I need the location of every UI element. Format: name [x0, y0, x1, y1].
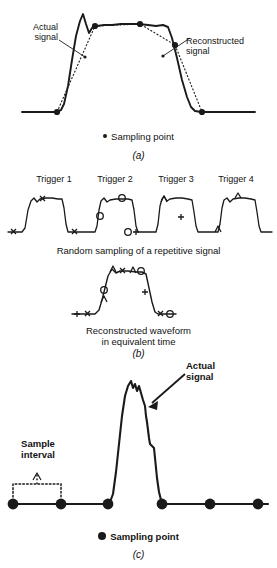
sample-interval-label: Sample interval — [6, 438, 70, 460]
actual-signal-leader-dot — [83, 55, 86, 58]
repetitive-sampling-caption: Random sampling of a repetitive signal — [8, 246, 269, 256]
panel-c-undersampled-pulse: Actual signal Sample interval Sampling p… — [0, 350, 277, 568]
legend-sampling-point-c: Sampling point — [0, 530, 277, 542]
panel-a-caption: (a) — [0, 150, 277, 161]
panel-a-waveform-svg — [0, 0, 277, 125]
panel-c-caption: (c) — [0, 549, 277, 560]
reconstructed-waveform-caption: Reconstructed waveform in equivalent tim… — [8, 325, 269, 347]
actual-signal-arrow-line-c — [152, 374, 185, 403]
sample-interval-bracket — [13, 484, 61, 497]
filled-circle-icon — [103, 134, 107, 138]
trigger-4-label: Trigger 4 — [208, 174, 264, 184]
filled-circle-icon — [98, 532, 106, 540]
reconstructed-waveform-trace — [72, 269, 176, 314]
reconstructed-sample-markers — [74, 266, 173, 317]
trigger-3-label: Trigger 3 — [148, 174, 204, 184]
panel-b-random-sampling: Trigger 1 Trigger 2 Trigger 3 Trigger 4 — [0, 170, 277, 350]
marker-circle-icon — [101, 268, 174, 318]
trigger-1-label: Trigger 1 — [26, 174, 82, 184]
panel-b-reconstructed-svg — [0, 260, 277, 326]
trigger-2-label: Trigger 2 — [87, 174, 143, 184]
repetitive-signal-trace — [8, 196, 272, 232]
actual-signal-label-a: Actual signal — [6, 22, 58, 42]
panel-b-repetitive-svg — [0, 186, 277, 244]
marker-plus-icon — [74, 289, 148, 317]
reconstructed-signal-leader-dot — [161, 54, 164, 57]
legend-sampling-point-a: Sampling point — [0, 130, 277, 142]
reconstructed-signal-trace — [57, 24, 202, 112]
actual-signal-label-c: Actual signal — [186, 360, 268, 382]
marker-x-icon — [85, 268, 163, 316]
panel-a-realtime-sampling: Actual signal Reconstructed signal Sampl… — [0, 0, 277, 170]
reconstructed-signal-label-a: Reconstructed signal — [186, 36, 270, 56]
